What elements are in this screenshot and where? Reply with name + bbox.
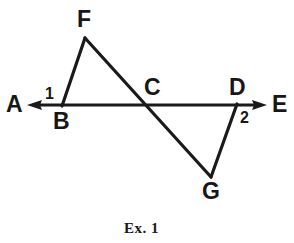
- segment-FG: [85, 38, 211, 177]
- segment-FB: [62, 38, 85, 106]
- segment-GD: [211, 104, 237, 177]
- figure-caption: Ex. 1: [124, 220, 159, 237]
- point-label-f: F: [77, 8, 91, 31]
- geometry-drawing: [0, 0, 294, 243]
- arrowhead-toward-e-icon: [252, 100, 267, 110]
- point-label-c: C: [144, 76, 161, 99]
- arrowhead-toward-a-icon: [27, 100, 42, 110]
- point-label-e: E: [272, 93, 287, 116]
- point-label-d: D: [229, 76, 246, 99]
- geometry-figure: A B C D E F G 1 2 Ex. 1: [0, 0, 294, 243]
- angle-label-2: 2: [240, 110, 249, 126]
- angle-label-1: 1: [45, 86, 54, 102]
- point-label-b: B: [53, 110, 70, 133]
- point-label-a: A: [6, 93, 23, 116]
- point-label-g: G: [202, 180, 220, 203]
